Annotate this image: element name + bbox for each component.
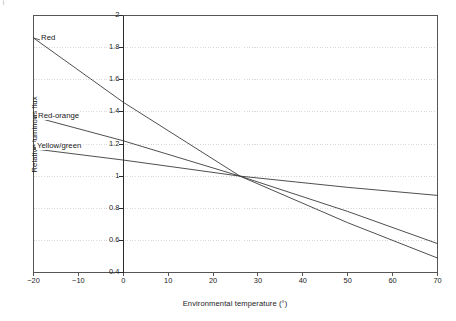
x-tick-label: 20 (198, 277, 228, 285)
data-series-lines (34, 38, 438, 258)
x-tick-label: 40 (288, 277, 318, 285)
y-tick-label: 0.4 (93, 268, 122, 276)
x-tick-label: 30 (243, 277, 273, 285)
x-tick-label: −20 (19, 277, 49, 285)
y-tick-label: 1.6 (93, 75, 122, 83)
y-axis-title: Relative luminous flux (30, 55, 39, 215)
y-tick-label: 1.4 (93, 107, 122, 115)
x-tick-label: 50 (333, 277, 363, 285)
y-tick-label: 1.8 (93, 43, 122, 51)
x-tick-label: 70 (423, 277, 453, 285)
plot-area (0, 0, 456, 321)
x-tick-label: 0 (108, 277, 138, 285)
x-axis-title: Environmental temperature (°) (33, 299, 437, 308)
y-tick-label: 0.6 (93, 236, 122, 244)
y-tick-label: 1 (93, 172, 122, 180)
chart-figure: ⌇ Relative luminous flux Environmental t… (0, 0, 456, 321)
x-tick-label: −10 (63, 277, 93, 285)
y-tick-label: 1.2 (93, 140, 122, 148)
x-tick-label: 60 (378, 277, 408, 285)
y-tick-label: 2 (93, 11, 122, 19)
series-label-yellow-green: Yellow/green (36, 141, 82, 150)
series-label-red: Red (40, 33, 56, 42)
page-corner-mark: ⌇ (2, 1, 7, 6)
x-tick-label: 10 (153, 277, 183, 285)
series-label-red-orange: Red-orange (37, 111, 80, 120)
y-tick-label: 0.8 (93, 204, 122, 212)
